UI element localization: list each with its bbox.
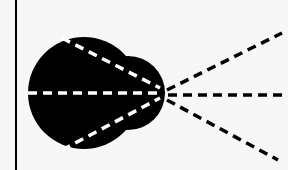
outer-dashed-rays — [167, 33, 288, 160]
diagram-svg — [0, 0, 288, 170]
outer-ray-1 — [167, 33, 282, 90]
outer-ray-3 — [167, 100, 278, 160]
diagram-canvas — [0, 0, 288, 170]
